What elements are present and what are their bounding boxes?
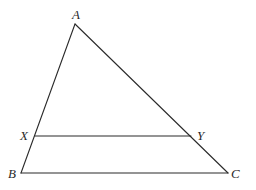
segment-ac (75, 24, 228, 173)
label-b: B (8, 166, 16, 181)
label-y: Y (197, 128, 206, 143)
diagram-canvas: A B C X Y (0, 0, 256, 190)
label-a: A (71, 7, 80, 22)
segment-ab (21, 24, 75, 173)
triangle-diagram: A B C X Y (0, 0, 256, 190)
label-x: X (19, 128, 29, 143)
label-c: C (231, 166, 240, 181)
